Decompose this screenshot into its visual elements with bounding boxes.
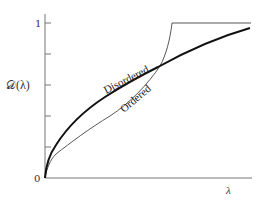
- y-tick-label-0: 0: [34, 173, 40, 184]
- y-tick-label-1: 1: [35, 18, 41, 29]
- disordered-curve: [45, 28, 250, 178]
- ordered-curve: [45, 23, 251, 178]
- chart-canvas: 1 0 𝒟(λ) λ Disordered Ordered: [0, 0, 258, 201]
- y-ticks: [45, 23, 51, 147]
- x-axis-label: λ: [225, 184, 231, 196]
- y-axis-label: 𝒟(λ): [6, 78, 30, 92]
